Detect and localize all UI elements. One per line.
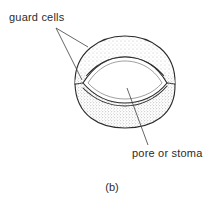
figure-caption: (b) bbox=[0, 181, 224, 193]
stoma-diagram bbox=[0, 0, 224, 203]
stoma-figure: guard cells pore or stoma (b) bbox=[0, 0, 224, 203]
label-guard-cells: guard cells bbox=[9, 12, 64, 23]
label-pore-or-stoma: pore or stoma bbox=[132, 148, 202, 159]
